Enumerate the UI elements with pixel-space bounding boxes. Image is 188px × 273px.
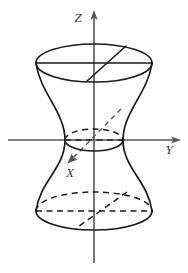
hyperboloid-diagram-canvas: Z Y X [0, 0, 188, 273]
left-silhouette-curve [36, 63, 65, 211]
x-axis-label: X [65, 165, 75, 180]
right-silhouette-curve [123, 63, 152, 211]
hyperboloid-figure: Z Y X [0, 0, 188, 273]
y-axis-label: Y [165, 142, 174, 157]
z-axis-label: Z [74, 10, 82, 25]
